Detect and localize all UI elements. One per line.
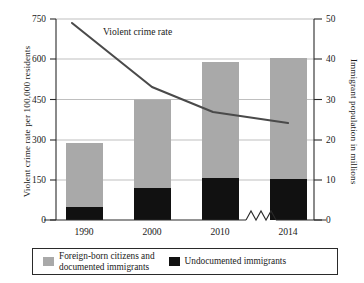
x-tick-label-2014: 2014	[258, 227, 318, 237]
bar-group-1990	[66, 143, 103, 220]
x-tick-label-1990: 1990	[54, 227, 114, 237]
y2-tick-label-30: 30	[326, 96, 354, 105]
chart-legend: Foreign-born citizens and documented imm…	[32, 248, 338, 275]
y-axis-right-title: Immigrant population in millions	[348, 17, 357, 227]
bar-foreign-born-2000	[134, 100, 171, 189]
y2-tick-label-20: 20	[326, 136, 354, 145]
y-axis-left-title: Violent crime rate per 100,000 residents	[23, 17, 32, 227]
y-tick-label-0: 0	[18, 216, 46, 225]
gray-swatch-icon	[43, 257, 54, 266]
bar-group-2000	[134, 100, 171, 221]
legend-label-foreign-born: Foreign-born citizens and documented imm…	[59, 251, 155, 272]
y-tick-label-600: 600	[18, 55, 46, 64]
y2-tick-label-10: 10	[326, 176, 354, 185]
y2-tick-label-50: 50	[326, 15, 354, 24]
legend-item-foreign-born: Foreign-born citizens and documented imm…	[43, 251, 155, 272]
violent-crime-rate-line	[72, 23, 288, 123]
violent-crime-rate-annotation: Violent crime rate	[103, 27, 172, 37]
bar-group-2014	[270, 58, 307, 220]
y2-tick-label-0: 0	[326, 216, 354, 225]
y2-tick-label-40: 40	[326, 55, 354, 64]
y-tick-label-150: 150	[18, 176, 46, 185]
bar-undocumented-2000	[134, 188, 171, 220]
bar-undocumented-2010	[202, 178, 239, 220]
right-axis	[314, 19, 322, 220]
x-tick-label-2010: 2010	[190, 227, 250, 237]
plot-area	[0, 0, 364, 283]
left-axis	[50, 19, 56, 220]
bar-undocumented-2014	[270, 179, 307, 220]
bar-foreign-born-2010	[202, 62, 239, 178]
y-tick-label-300: 300	[18, 136, 46, 145]
black-swatch-icon	[169, 257, 180, 266]
bar-foreign-born-1990	[66, 143, 103, 207]
bar-group-2010	[202, 62, 239, 220]
violent-crime-immigration-chart: Violent crime rate per 100,000 residents…	[0, 0, 364, 283]
legend-item-undocumented: Undocumented immigrants	[169, 256, 286, 267]
y-tick-label-750: 750	[18, 15, 46, 24]
legend-label-undocumented: Undocumented immigrants	[185, 256, 286, 267]
bar-undocumented-1990	[66, 207, 103, 220]
x-tick-label-2000: 2000	[122, 227, 182, 237]
y-tick-label-450: 450	[18, 96, 46, 105]
bar-foreign-born-2014	[270, 58, 307, 179]
